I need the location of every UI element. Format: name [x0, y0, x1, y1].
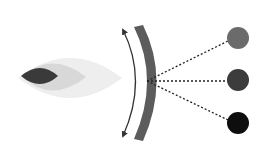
curved-band	[134, 25, 157, 141]
circle-top	[227, 27, 249, 49]
diagram-canvas	[0, 0, 266, 153]
ray-bottom	[147, 81, 228, 120]
rays-group	[147, 41, 228, 120]
circle-bottom	[227, 112, 249, 134]
lens-group	[18, 58, 122, 98]
rotation-arrow-icon	[123, 30, 136, 136]
ray-top	[147, 41, 228, 81]
circle-middle	[227, 69, 249, 91]
